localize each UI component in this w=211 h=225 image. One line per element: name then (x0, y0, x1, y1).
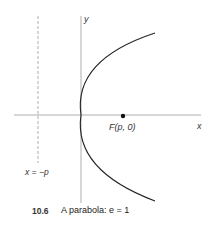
x-axis-label: x (196, 121, 202, 131)
caption-text: A parabola: e = 1 (61, 205, 129, 215)
parabola-figure: y x F(p, 0) x = −p 10.6 A parabola: e = … (0, 0, 211, 225)
parabola-curve (80, 33, 155, 201)
focus-label: F(p, 0) (109, 122, 136, 132)
y-axis-label: y (83, 14, 89, 24)
caption-number: 10.6 (32, 206, 49, 216)
focus-point (121, 114, 125, 118)
directrix-label: x = −p (24, 167, 49, 177)
